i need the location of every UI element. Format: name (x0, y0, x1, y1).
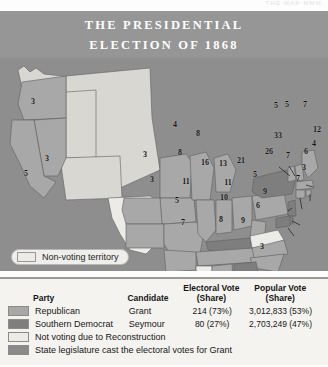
electoral-votes-LA: 7 (181, 218, 185, 227)
electoral-votes-PA: 26 (265, 147, 273, 156)
us-map-svg (0, 58, 328, 271)
label-not-voting: Not voting due to Reconstruction (35, 332, 166, 342)
non-voting-territory-label: Non-voting territory (42, 252, 119, 262)
header-popular-vote: Popular Vote (Share) (241, 284, 320, 303)
state-NE (122, 198, 162, 224)
territory-idaho-utah (66, 90, 96, 158)
electoral-votes-ME: 7 (303, 100, 307, 109)
electoral-votes-MN: 4 (173, 120, 177, 129)
electoral-votes-GA: 9 (241, 216, 245, 225)
non-voting-territory-legend: Non-voting territory (11, 249, 129, 265)
electoral-votes-DE: 3 (302, 163, 306, 172)
state-KS (126, 224, 164, 248)
electoral-votes-NJ: 7 (286, 151, 290, 160)
popular-southern-democrat: 2,703,249 (47%) (241, 319, 320, 329)
state-MD (276, 216, 290, 228)
legend-header-row: Party Candidate Electoral Vote (Share) P… (8, 284, 320, 303)
popular-republican: 3,012,833 (53%) (241, 306, 320, 316)
title-line-2: ELECTION OF 1868 (89, 35, 238, 55)
legend-table: Party Candidate Electoral Vote (Share) P… (0, 277, 328, 365)
legend-row-southern-democrat: Southern Democrat Seymour 80 (27%) 2,703… (8, 317, 320, 330)
electoral-votes-AL: 8 (219, 215, 223, 224)
electoral-republican: 214 (73%) (183, 306, 241, 316)
swatch-state-legislature (8, 345, 29, 355)
election-map-figure: THE MAP MMM THE PRESIDENTIAL ELECTION OF… (0, 0, 328, 367)
electoral-votes-IA: 8 (178, 148, 182, 157)
electoral-votes-AR: 5 (175, 196, 179, 205)
electoral-votes-SC: 6 (256, 201, 260, 210)
electoral-votes-VT: 5 (285, 100, 289, 109)
state-CT (296, 190, 305, 198)
header-candidate: Candidate (127, 294, 182, 304)
electoral-votes-NV: 3 (45, 154, 49, 163)
territory-arizona-nm (60, 156, 122, 200)
candidate-seymour: Seymour (129, 319, 183, 329)
swatch-republican (8, 306, 29, 316)
electoral-votes-RI: 4 (312, 139, 316, 148)
electoral-votes-KS: 3 (150, 175, 154, 184)
header-swatch-spacer (8, 295, 27, 303)
electoral-southern-democrat: 80 (27%) (183, 319, 241, 329)
party-republican: Republican (35, 306, 129, 316)
non-voting-territory-swatch (17, 252, 36, 262)
candidate-grant: Grant (129, 306, 183, 316)
swatch-not-voting (8, 332, 29, 342)
electoral-votes-IN: 13 (219, 159, 227, 168)
electoral-votes-KY: 11 (224, 178, 232, 187)
header-party: Party (33, 294, 127, 304)
electoral-votes-MD: 7 (296, 174, 300, 183)
running-head: THE MAP MMM (0, 0, 328, 9)
label-state-legislature: State legislature cast the electoral vot… (35, 345, 232, 355)
swatch-southern-democrat (8, 319, 29, 329)
state-OH (232, 196, 252, 230)
figure-title-band: THE PRESIDENTIAL ELECTION OF 1868 (0, 11, 328, 58)
electoral-votes-WV: 5 (253, 170, 257, 179)
electoral-votes-IL: 16 (201, 158, 209, 167)
state-AR (164, 250, 196, 271)
electoral-votes-WI: 8 (196, 129, 200, 138)
header-electoral-line1: Electoral Vote (183, 283, 239, 293)
us-map: 3354883311161321511105789369263355712467… (0, 58, 328, 271)
state-OR (18, 76, 66, 120)
electoral-votes-MO: 11 (182, 177, 190, 186)
state-GA (234, 262, 260, 271)
electoral-votes-FL: 3 (260, 242, 264, 251)
legend-row-state-legislature: State legislature cast the electoral vot… (8, 343, 320, 356)
state-MS (196, 266, 212, 271)
electoral-votes-NC: 9 (263, 187, 267, 196)
electoral-votes-NH: 5 (274, 101, 278, 110)
electoral-votes-NE: 3 (143, 150, 147, 159)
state-VT (288, 166, 296, 182)
legend-row-not-voting: Not voting due to Reconstruction (8, 330, 320, 343)
party-southern-democrat: Southern Democrat (35, 319, 129, 329)
legend-row-republican: Republican Grant 214 (73%) 3,012,833 (53… (8, 304, 320, 317)
electoral-votes-OR: 3 (31, 97, 35, 106)
electoral-votes-CA: 5 (24, 169, 28, 178)
electoral-votes-TN: 10 (220, 193, 228, 202)
header-electoral-vote: Electoral Vote (Share) (182, 284, 240, 303)
electoral-votes-CT: 6 (304, 147, 308, 156)
header-electoral-line2: (Share) (197, 293, 226, 303)
title-line-1: THE PRESIDENTIAL (85, 15, 244, 35)
header-popular-line1: Popular Vote (254, 283, 306, 293)
electoral-votes-MA: 12 (313, 125, 321, 134)
electoral-votes-NY: 33 (274, 131, 282, 140)
header-popular-line2: (Share) (266, 293, 295, 303)
electoral-votes-OH: 21 (237, 156, 245, 165)
